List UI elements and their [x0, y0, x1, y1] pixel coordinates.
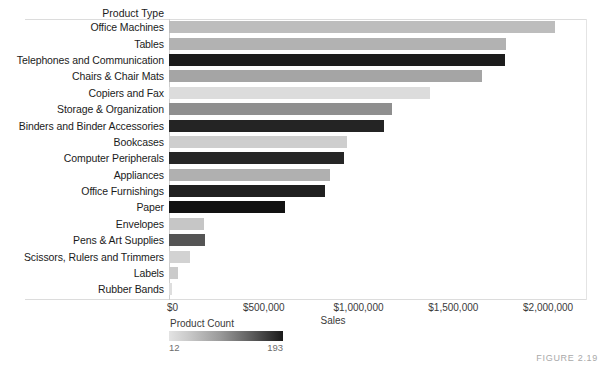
bar-row-label: Copiers and Fax — [0, 87, 169, 99]
bar-row-label: Chairs & Chair Mats — [0, 70, 169, 82]
bar-row-track — [169, 85, 610, 101]
bar-row: Telephones and Communication — [0, 52, 610, 68]
bar[interactable] — [169, 136, 347, 148]
bar[interactable] — [169, 283, 172, 295]
bar-row: Copiers and Fax — [0, 85, 610, 101]
bar[interactable] — [169, 38, 506, 50]
bar-row-track — [169, 281, 610, 297]
x-axis-tick-label: $1,500,000 — [428, 302, 478, 313]
bar-row-label: Binders and Binder Accessories — [0, 120, 169, 132]
bar-row-label: Pens & Art Supplies — [0, 234, 169, 246]
bar-row: Rubber Bands — [0, 281, 610, 297]
bar-row-track — [169, 265, 610, 281]
bar[interactable] — [169, 251, 190, 263]
bar-row-label: Office Furnishings — [0, 185, 169, 197]
bar-row: Office Machines — [0, 19, 610, 35]
bar[interactable] — [169, 87, 430, 99]
row-header-label: Product Type — [0, 7, 169, 19]
bar-row-track — [169, 19, 610, 35]
bar-row-track — [169, 199, 610, 215]
bar-row-track — [169, 248, 610, 264]
bar-row: Office Furnishings — [0, 183, 610, 199]
bar-row-label: Computer Peripherals — [0, 152, 169, 164]
bar-row-track — [169, 232, 610, 248]
bar-row-track — [169, 167, 610, 183]
bar-row-label: Tables — [0, 38, 169, 50]
bar[interactable] — [169, 185, 325, 197]
bar[interactable] — [169, 21, 555, 33]
legend-tick-min: 12 — [169, 342, 180, 353]
bar-row-track — [169, 52, 610, 68]
figure-container: Product Type Office MachinesTablesTeleph… — [0, 0, 610, 373]
bar-row: Chairs & Chair Mats — [0, 68, 610, 84]
bar-row-label: Scissors, Rulers and Trimmers — [0, 251, 169, 263]
plot-bottom-rule — [25, 299, 587, 300]
x-axis-tick-label: $1,000,000 — [334, 302, 384, 313]
bar-row-label: Paper — [0, 201, 169, 213]
bar-row-label: Telephones and Communication — [0, 54, 169, 66]
bar[interactable] — [169, 267, 178, 279]
bar-row: Storage & Organization — [0, 101, 610, 117]
bar[interactable] — [169, 152, 344, 164]
x-axis-tick-label: $0 — [167, 302, 178, 313]
bar-row: Envelopes — [0, 216, 610, 232]
bar-rows: Office MachinesTablesTelephones and Comm… — [0, 19, 610, 298]
bar-row-track — [169, 216, 610, 232]
x-axis-tick-label: $500,000 — [243, 302, 285, 313]
bar-row-label: Appliances — [0, 169, 169, 181]
legend-gradient-ramp — [169, 331, 283, 341]
bar-row: Labels — [0, 265, 610, 281]
legend-title: Product Count — [169, 318, 369, 329]
bar-row: Computer Peripherals — [0, 150, 610, 166]
legend-tick-max: 193 — [267, 342, 283, 353]
bar-row: Bookcases — [0, 134, 610, 150]
bar-row-label: Rubber Bands — [0, 283, 169, 295]
bar-row-track — [169, 134, 610, 150]
color-legend: Product Count 12 193 — [169, 318, 369, 355]
bar-chart: Product Type Office MachinesTablesTeleph… — [0, 4, 610, 298]
bar-row: Binders and Binder Accessories — [0, 117, 610, 133]
figure-caption: FIGURE 2.19 — [536, 353, 598, 363]
x-axis-tick-label: $2,000,000 — [523, 302, 573, 313]
bar[interactable] — [169, 201, 285, 213]
bar-row: Tables — [0, 35, 610, 51]
bar[interactable] — [169, 120, 384, 132]
row-header: Product Type — [0, 4, 610, 19]
bar-row-track — [169, 150, 610, 166]
bar-row-label: Envelopes — [0, 218, 169, 230]
bar-row: Pens & Art Supplies — [0, 232, 610, 248]
legend-ticks: 12 193 — [169, 342, 283, 355]
bar[interactable] — [169, 103, 392, 115]
bar[interactable] — [169, 169, 330, 181]
bar-row-track — [169, 35, 610, 51]
bar[interactable] — [169, 54, 505, 66]
bar-row-label: Bookcases — [0, 136, 169, 148]
bar-row-label: Labels — [0, 267, 169, 279]
bar-row-track — [169, 183, 610, 199]
bar-row: Paper — [0, 199, 610, 215]
bar-row-track — [169, 68, 610, 84]
bar-row-track — [169, 117, 610, 133]
bar-row-label: Storage & Organization — [0, 103, 169, 115]
bar[interactable] — [169, 70, 482, 82]
bar-row-track — [169, 101, 610, 117]
bar-row: Scissors, Rulers and Trimmers — [0, 248, 610, 264]
bar[interactable] — [169, 234, 205, 246]
bar-row-label: Office Machines — [0, 21, 169, 33]
bar[interactable] — [169, 218, 204, 230]
bar-row: Appliances — [0, 167, 610, 183]
